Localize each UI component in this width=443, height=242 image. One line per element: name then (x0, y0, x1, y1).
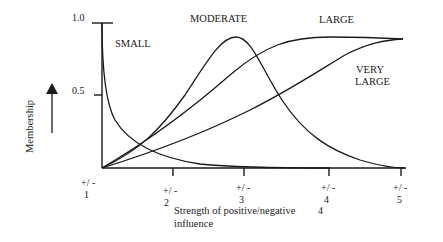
up-arrow-icon (46, 83, 58, 133)
x-tick-value-3: 3 (239, 194, 244, 205)
y-tick-label-0-5: 0.5 (72, 85, 85, 96)
x-axis-stray-label: 4 (318, 205, 323, 216)
x-tick-value-5: 5 (397, 194, 402, 205)
x-tick-prefix-4: +/ - (321, 182, 335, 193)
y-axis-title: Membership (24, 100, 35, 153)
x-tick-prefix-1: +/ - (81, 177, 95, 188)
x-tick-prefix-3: +/ - (236, 182, 250, 193)
x-axis-title-line1: Strength of positive/negative (174, 205, 296, 216)
label-large: LARGE (319, 14, 354, 25)
label-very-large-2: LARGE (355, 76, 390, 87)
x-tick-prefix-5: +/ - (393, 182, 407, 193)
x-tick-prefix-2: +/ - (163, 185, 177, 196)
y-tick-label-1-0: 1.0 (72, 12, 85, 23)
membership-chart: 1.0 0.5 +/ - 1 +/ - 2 +/ - 3 +/ - 4 +/ -… (0, 0, 443, 242)
x-axis-title-line2: influence (174, 218, 213, 229)
label-moderate: MODERATE (190, 13, 247, 24)
x-tick-value-1: 1 (84, 189, 89, 200)
label-small: SMALL (115, 38, 151, 49)
x-tick-value-2: 2 (164, 197, 169, 208)
label-very-large-1: VERY (356, 64, 384, 75)
x-tick-value-4: 4 (324, 194, 329, 205)
